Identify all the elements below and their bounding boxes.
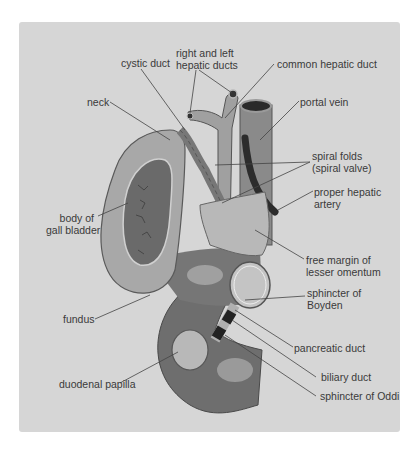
label-text: gall bladder: [46, 224, 94, 236]
label-duodenal-papilla: duodenal papilla: [59, 378, 135, 390]
duodenal-papilla: [172, 330, 208, 370]
label-text: biliary duct: [321, 371, 371, 383]
label-body-of-gall-bladder: body of gall bladder: [46, 212, 94, 236]
sphincter-of-boyden: [230, 262, 270, 308]
label-text: sphincter of Oddi: [320, 390, 399, 402]
label-sphincter-of-oddi: sphincter of Oddi: [320, 390, 399, 402]
lesser-omentum: [200, 192, 269, 256]
label-sphincter-of-boyden: sphincter of Boyden: [307, 287, 361, 311]
label-biliary-duct: biliary duct: [321, 371, 371, 383]
label-text: portal vein: [300, 96, 348, 108]
label-hepatic-ducts: right and left hepatic ducts: [176, 47, 238, 71]
label-text: duodenal papilla: [59, 378, 135, 390]
label-common-hepatic-duct: common hepatic duct: [277, 58, 377, 70]
label-text: (spiral valve): [312, 162, 372, 174]
label-text: common hepatic duct: [277, 58, 377, 70]
label-text: Boyden: [307, 299, 361, 311]
label-text: sphincter of: [307, 287, 361, 299]
label-text: cystic duct: [121, 57, 170, 69]
label-text: right and left: [176, 47, 238, 59]
label-text: body of: [46, 212, 94, 224]
label-text: free margin of: [306, 254, 381, 266]
label-text: pancreatic duct: [294, 342, 365, 354]
label-free-margin: free margin of lesser omentum: [306, 254, 381, 278]
label-fundus: fundus: [63, 313, 95, 325]
label-portal-vein: portal vein: [300, 96, 348, 108]
label-text: proper hepatic: [314, 186, 381, 198]
label-text: neck: [87, 96, 109, 108]
label-spiral-folds: spiral folds (spiral valve): [312, 150, 372, 174]
label-proper-hepatic-artery: proper hepatic artery: [314, 186, 381, 210]
label-text: hepatic ducts: [176, 59, 238, 71]
cystic-duct: [180, 130, 222, 205]
label-neck: neck: [87, 96, 109, 108]
label-text: artery: [314, 198, 381, 210]
label-pancreatic-duct: pancreatic duct: [294, 342, 365, 354]
label-cystic-duct: cystic duct: [121, 57, 170, 69]
label-text: lesser omentum: [306, 266, 381, 278]
label-text: fundus: [63, 313, 95, 325]
label-text: spiral folds: [312, 150, 372, 162]
